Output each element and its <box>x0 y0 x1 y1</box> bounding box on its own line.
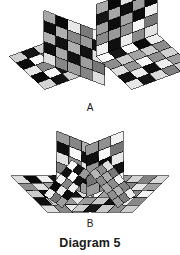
diagram-caption: Diagram 5 <box>0 237 180 250</box>
figure-a-label: A <box>0 103 180 113</box>
figure-b-label: B <box>0 219 180 229</box>
diagram-canvas <box>0 0 180 255</box>
